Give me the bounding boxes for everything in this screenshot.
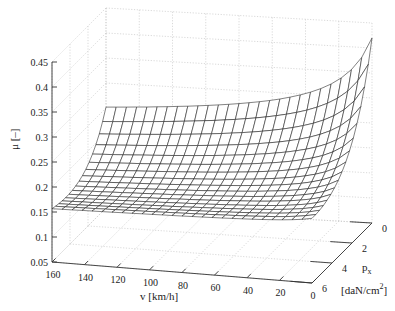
surface-plot: 0.050.10.150.20.250.30.350.40.4516014012…	[0, 0, 395, 311]
x-tick	[280, 276, 284, 280]
y-axis-unit-close: ]	[383, 284, 387, 296]
y-axis-title: px	[362, 261, 372, 276]
y-tick	[291, 281, 312, 283]
grid-left-horizontal	[52, 58, 106, 112]
y-tick	[310, 261, 332, 263]
z-tick-label: 0.1	[36, 232, 49, 243]
surface-mesh	[52, 38, 372, 220]
grid-back-horizontal	[106, 58, 372, 73]
y-axis-title-sub: x	[368, 267, 372, 276]
x-tick	[215, 271, 219, 275]
x-tick-label: 140	[78, 272, 93, 283]
grid-floor-v	[85, 210, 140, 265]
x-tick	[85, 261, 89, 265]
x-tick-label: 120	[111, 274, 126, 285]
x-tick	[312, 279, 316, 283]
x-tick-label: 100	[143, 277, 158, 288]
z-tick-label: 0.25	[31, 157, 49, 168]
x-tick-label: 40	[243, 285, 253, 296]
grid-floor-v	[150, 214, 206, 270]
grid-floor-v	[247, 219, 306, 278]
grid-floor-v	[117, 212, 173, 268]
z-tick-label: 0.2	[36, 182, 49, 193]
z-tick-label: 0.45	[31, 57, 49, 68]
y-tick-label: 6	[322, 283, 327, 294]
z-tick-label: 0.4	[36, 82, 49, 93]
x-tick-label: 0	[311, 290, 316, 301]
y-axis-unit: [daN/cm2]	[341, 282, 387, 296]
x-tick-label: 160	[46, 269, 61, 280]
x-tick	[52, 258, 56, 262]
grid-left-horizontal	[52, 8, 106, 62]
grid-left-horizontal	[52, 33, 106, 87]
x-axis-title: v [km/h]	[140, 290, 178, 302]
z-tick-label: 0.35	[31, 107, 49, 118]
grid-floor-v	[280, 221, 339, 280]
z-tick-label: 0.05	[31, 257, 49, 268]
x-tick	[182, 269, 186, 273]
x-tick	[150, 266, 154, 270]
y-tick-label: 2	[362, 243, 367, 254]
x-tick-label: 20	[276, 287, 286, 298]
grid-floor-p	[88, 226, 352, 243]
x-tick	[117, 264, 121, 268]
x-tick	[247, 274, 251, 278]
y-tick-label: 4	[342, 263, 347, 274]
grid-floor-v	[182, 216, 239, 273]
x-tick-label: 80	[178, 280, 188, 291]
grid-left-horizontal	[52, 83, 106, 137]
x-tick-label: 60	[211, 282, 221, 293]
y-tick-label: 0	[382, 223, 387, 234]
grid-floor-v	[215, 217, 273, 275]
y-tick	[350, 222, 372, 223]
z-tick-label: 0.3	[36, 132, 49, 143]
y-axis-unit-text: [daN/cm	[341, 284, 379, 296]
z-tick-label: 0.15	[31, 207, 49, 218]
y-tick	[330, 242, 352, 243]
grid-floor-v	[52, 208, 106, 262]
z-axis-title: μ [–]	[8, 129, 20, 150]
